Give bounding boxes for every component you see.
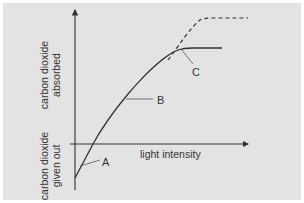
label-c: C — [192, 66, 200, 78]
x-axis-label: light intensity — [140, 148, 201, 160]
label-a: A — [102, 156, 110, 168]
svg-text:carbon dioxide: carbon dioxide — [38, 41, 50, 109]
svg-text:carbon dioxide: carbon dioxide — [38, 132, 50, 200]
svg-text:given out: given out — [50, 145, 62, 188]
leader-c — [181, 49, 193, 64]
label-b: B — [157, 94, 164, 106]
svg-text:absorbed: absorbed — [50, 53, 62, 97]
photosynthesis-graph: A B C light intensity carbon dioxide abs… — [0, 0, 304, 203]
y-axis-label-top: carbon dioxide absorbed — [38, 41, 62, 109]
dashed-curve — [168, 18, 248, 60]
y-axis-label-bottom: carbon dioxide given out — [38, 132, 62, 200]
